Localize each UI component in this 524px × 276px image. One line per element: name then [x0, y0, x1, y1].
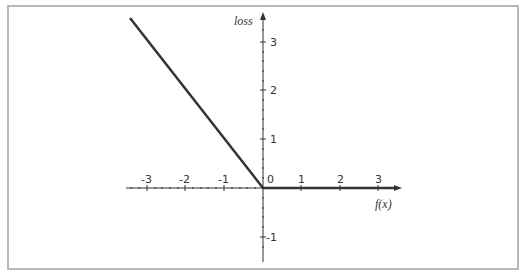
loss-line [130, 18, 394, 188]
x-tick-label: 1 [298, 173, 305, 186]
x-axis-title: f(x) [375, 197, 392, 211]
x-tick-label: -1 [218, 173, 229, 186]
y-tick-label: 1 [270, 133, 277, 146]
y-tick-label: 2 [270, 84, 277, 97]
x-tick-label: 0 [267, 173, 274, 186]
y-axis-title: loss [234, 14, 253, 28]
x-tick-label: -2 [179, 173, 190, 186]
y-tick-label: 3 [270, 36, 277, 49]
chart: -3 -2 -1 0 1 2 3 3 2 1 -1 loss f(x) [0, 0, 524, 276]
x-tick-label: 2 [337, 173, 344, 186]
x-tick-label: -3 [141, 173, 152, 186]
x-tick-label: 3 [375, 173, 382, 186]
y-tick-label: -1 [266, 231, 277, 244]
